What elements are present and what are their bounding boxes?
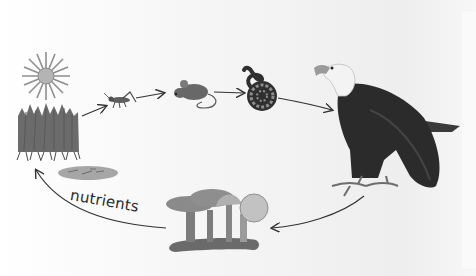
arrow-grasshopper-to-mouse <box>136 93 164 98</box>
mouse-icon <box>174 80 216 108</box>
sun-icon <box>22 52 70 100</box>
mushrooms-icon <box>166 189 268 252</box>
grass-icon <box>17 103 80 161</box>
arrow-eagle-to-mushrooms <box>272 196 364 228</box>
food-chain-diagram: nutrients <box>0 0 476 276</box>
snake-icon <box>244 68 277 111</box>
grasshopper-icon <box>104 92 136 108</box>
arrow-grass-to-grasshopper <box>82 106 106 116</box>
arrow-snake-to-eagle <box>278 98 332 110</box>
diagram-canvas <box>0 0 476 276</box>
arrow-mouse-to-snake <box>214 92 244 93</box>
soil-icon <box>58 166 118 180</box>
eagle-icon <box>314 64 460 196</box>
